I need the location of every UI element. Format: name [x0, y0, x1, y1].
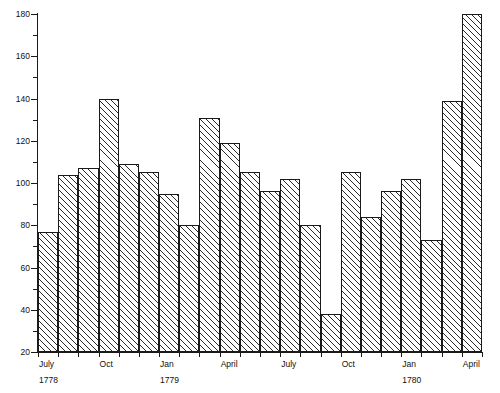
bar	[381, 191, 401, 352]
x-tick-label-month: July	[39, 359, 54, 369]
x-tick-label: July	[281, 359, 296, 369]
x-tick-label: Jan1779	[160, 359, 179, 385]
y-tick-label: 40	[0, 305, 30, 315]
x-tick	[179, 352, 180, 357]
x-tick	[482, 352, 483, 357]
y-tick-major	[31, 310, 37, 311]
y-tick-label: 20	[0, 347, 30, 357]
x-tick-label-month: Oct	[342, 359, 355, 369]
bar	[139, 172, 159, 352]
bar	[58, 175, 78, 352]
y-tick-major	[31, 268, 37, 269]
x-tick	[321, 352, 322, 357]
y-tick-major	[31, 141, 37, 142]
bar	[280, 179, 300, 352]
y-tick-minor	[33, 204, 37, 205]
x-tick	[139, 352, 140, 357]
bar	[199, 118, 219, 352]
x-tick	[341, 352, 342, 357]
x-tick-label: April	[463, 359, 480, 369]
bar	[99, 99, 119, 353]
x-tick	[280, 352, 281, 357]
y-tick-label: 140	[0, 94, 30, 104]
y-tick-major	[31, 225, 37, 226]
x-tick-label-month: April	[221, 359, 238, 369]
y-tick-major	[31, 352, 37, 353]
x-tick-label: Oct	[100, 359, 113, 369]
x-tick-label-year: 1780	[402, 375, 421, 385]
bar	[321, 314, 341, 352]
y-tick-minor	[33, 246, 37, 247]
x-tick-label-month: July	[281, 359, 296, 369]
bar	[220, 143, 240, 352]
bar	[341, 172, 361, 352]
x-tick-label-month: Oct	[100, 359, 113, 369]
bar	[159, 194, 179, 352]
x-tick	[442, 352, 443, 357]
bar	[78, 168, 98, 352]
x-tick	[38, 352, 39, 357]
y-tick-minor	[33, 120, 37, 121]
bar	[401, 179, 421, 352]
x-tick	[220, 352, 221, 357]
x-tick-label-year: 1778	[39, 375, 58, 385]
bar	[38, 232, 58, 352]
y-tick-minor	[33, 331, 37, 332]
x-tick	[99, 352, 100, 357]
x-tick	[240, 352, 241, 357]
bar	[361, 217, 381, 352]
x-tick	[260, 352, 261, 357]
x-tick	[119, 352, 120, 357]
bars-container	[38, 14, 482, 352]
x-tick-label-month: April	[463, 359, 480, 369]
y-tick-label: 100	[0, 178, 30, 188]
y-tick-label: 80	[0, 220, 30, 230]
bar-chart: 20406080100120140160180 July1778OctJan17…	[0, 0, 500, 393]
bar	[442, 101, 462, 352]
y-tick-label: 60	[0, 263, 30, 273]
y-tick-minor	[33, 162, 37, 163]
bar	[462, 14, 482, 352]
x-tick	[381, 352, 382, 357]
x-tick-label-year: 1779	[160, 375, 179, 385]
y-tick-major	[31, 99, 37, 100]
bar	[179, 225, 199, 352]
bar	[300, 225, 320, 352]
y-tick-label: 180	[0, 9, 30, 19]
y-tick-major	[31, 14, 37, 15]
y-tick-label: 160	[0, 51, 30, 61]
x-tick	[58, 352, 59, 357]
bar	[421, 240, 441, 352]
x-tick	[421, 352, 422, 357]
y-tick-major	[31, 183, 37, 184]
x-tick	[159, 352, 160, 357]
y-tick-minor	[33, 289, 37, 290]
x-tick-label-month: Jan	[402, 359, 416, 369]
y-tick-major	[31, 56, 37, 57]
x-tick	[199, 352, 200, 357]
x-tick	[300, 352, 301, 357]
bar	[240, 172, 260, 352]
bar	[119, 164, 139, 352]
x-tick-label: April	[221, 359, 238, 369]
x-tick	[401, 352, 402, 357]
bar	[260, 191, 280, 352]
y-tick-label: 120	[0, 136, 30, 146]
x-tick	[462, 352, 463, 357]
y-tick-minor	[33, 35, 37, 36]
x-tick-label: Jan1780	[402, 359, 421, 385]
x-tick-label: July1778	[39, 359, 58, 385]
x-tick-label: Oct	[342, 359, 355, 369]
x-tick	[361, 352, 362, 357]
y-tick-minor	[33, 77, 37, 78]
x-tick	[78, 352, 79, 357]
x-tick-label-month: Jan	[160, 359, 174, 369]
